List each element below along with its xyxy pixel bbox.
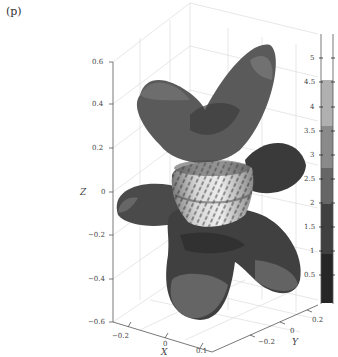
colorbar-tick-label: 4 — [310, 103, 314, 111]
y-axis-label: Y — [292, 337, 298, 347]
z-tick-label: 0.4 — [92, 100, 103, 108]
colorbar — [319, 34, 335, 304]
colorbar-tick-label: 4.5 — [304, 78, 315, 86]
z-tick-label: −0.6 — [88, 318, 105, 326]
y-tick-label: 0 — [290, 327, 294, 335]
y-tick-label: −0.2 — [258, 338, 275, 346]
z-tick-label: 0.2 — [92, 144, 103, 152]
z-axis-label: Z — [80, 187, 86, 197]
z-tick-label: 0.6 — [92, 58, 103, 66]
colorbar-tick-label: 1.5 — [304, 223, 315, 231]
colorbar-tick-label: 1 — [310, 247, 314, 255]
colorbar-tick-label: 5 — [310, 54, 314, 62]
x-tick-label: −0.2 — [112, 332, 129, 340]
lower-lobes — [166, 206, 301, 320]
x-tick-label: 0.1 — [196, 347, 207, 355]
x-axis-label: X — [161, 347, 167, 357]
z-tick-label: 0 — [101, 188, 105, 196]
z-tick-label: −0.4 — [88, 275, 105, 283]
y-tick-label: 0.2 — [312, 316, 323, 324]
central-ring — [172, 160, 254, 227]
colorbar-tick-label: 3.5 — [304, 127, 315, 135]
colorbar-tick-label: 0.5 — [304, 271, 315, 279]
z-tick-label: −0.2 — [88, 231, 105, 239]
colorbar-tick-label: 3 — [310, 151, 314, 159]
colorbar-tick-label: 2.5 — [304, 175, 315, 183]
colorbar-tick-label: 2 — [310, 199, 314, 207]
